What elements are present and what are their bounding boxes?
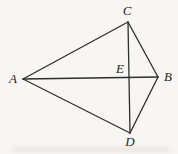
geometry-figure-container: ABCDE [0, 0, 178, 154]
segment-AC [23, 22, 128, 79]
geometry-figure: ABCDE [0, 0, 178, 154]
segment-DB [130, 77, 158, 133]
vertex-label-A: A [8, 71, 17, 86]
vertex-label-E: E [115, 61, 124, 76]
segment-AB [23, 77, 158, 79]
segment-CB [128, 22, 158, 77]
segment-AD [23, 79, 130, 133]
vertex-label-B: B [164, 69, 172, 84]
vertex-label-C: C [123, 3, 132, 18]
scan-artifact-smudge [12, 147, 170, 152]
